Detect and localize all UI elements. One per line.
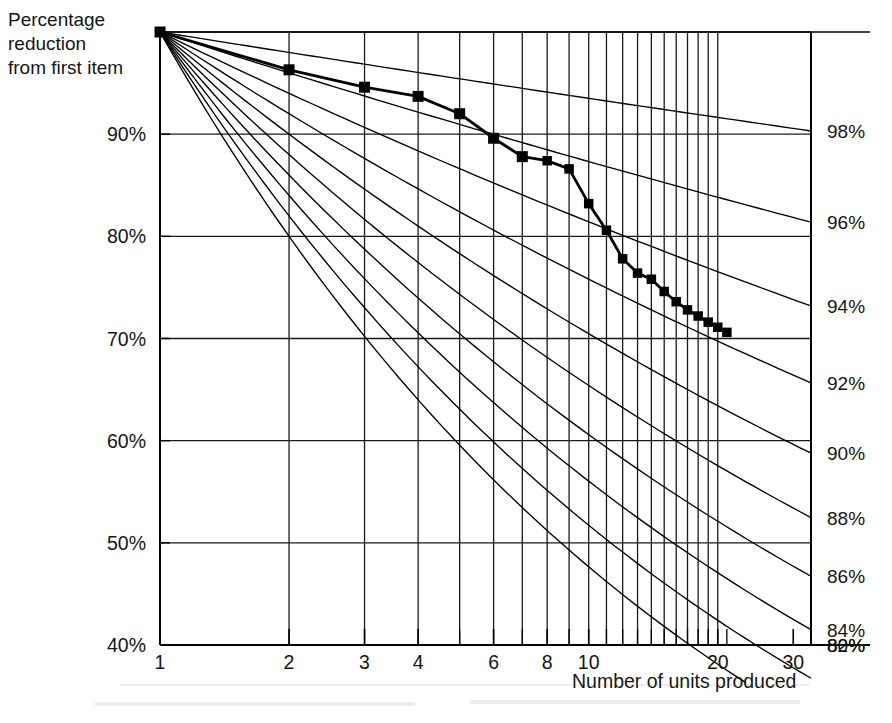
chart-canvas: 123468102030 40%50%60%70%80%90% 98%96%94… [0, 0, 892, 723]
data-point-marker [659, 287, 669, 297]
x-tick-label-4: 4 [413, 651, 424, 673]
learning-curve-label-96: 96% [827, 212, 865, 233]
data-point-marker [713, 323, 723, 333]
data-point-marker [633, 268, 643, 278]
data-point-marker [284, 64, 295, 75]
data-point-marker [647, 274, 657, 284]
data-point-marker [584, 199, 594, 209]
data-point-marker [564, 164, 574, 174]
data-point-marker [618, 254, 628, 264]
learning-curve-label-90: 90% [827, 443, 865, 464]
learning-curve-label-98: 98% [827, 121, 865, 142]
data-point-marker [155, 27, 166, 38]
data-point-marker [359, 82, 370, 93]
y-tick-label-50%: 50% [107, 532, 146, 554]
data-point-marker [693, 311, 703, 321]
x-axis-title: Number of units produced [572, 670, 796, 692]
x-tick-label-2: 2 [284, 651, 295, 673]
y-tick-label-90%: 90% [107, 123, 146, 145]
data-point-marker [542, 156, 552, 166]
y-tick-label-60%: 60% [107, 430, 146, 452]
x-tick-label-3: 3 [359, 651, 370, 673]
x-tick-label-6: 6 [488, 651, 499, 673]
data-point-marker [454, 108, 465, 119]
learning-curve-label-88: 88% [827, 508, 865, 529]
x-tick-label-8: 8 [542, 651, 553, 673]
y-tick-label-40%: 40% [107, 634, 146, 656]
data-point-marker [671, 297, 681, 307]
learning-curve-label-80: 80% [827, 635, 865, 656]
chart-title-line-3: from first item [8, 57, 123, 78]
data-point-marker [703, 317, 713, 327]
learning-curve-label-86: 86% [827, 566, 865, 587]
y-tick-label-80%: 80% [107, 225, 146, 247]
data-point-marker [683, 305, 693, 315]
data-point-marker [722, 328, 732, 338]
chart-title-line-2: reduction [8, 33, 86, 54]
x-tick-label-1: 1 [155, 651, 166, 673]
y-tick-label-70%: 70% [107, 328, 146, 350]
data-point-marker [413, 91, 424, 102]
chart-title-line-1: Percentage [8, 9, 105, 30]
data-point-marker [602, 225, 612, 235]
learning-curve-label-94: 94% [827, 296, 865, 317]
data-point-marker [488, 133, 499, 144]
data-point-marker [517, 151, 528, 162]
learning-curve-chart: 123468102030 40%50%60%70%80%90% 98%96%94… [0, 0, 892, 723]
learning-curve-label-92: 92% [827, 373, 865, 394]
